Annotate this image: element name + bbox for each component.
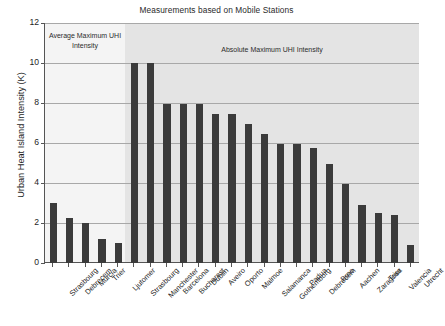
bar (147, 63, 154, 263)
plot-area: Average Maximum UHI Intensity Absolute M… (44, 23, 419, 263)
bar (82, 223, 89, 263)
bar (212, 114, 219, 263)
bar (342, 184, 349, 263)
bar (196, 104, 203, 263)
y-tick-label-6: 6 (34, 137, 39, 147)
bar (261, 134, 268, 263)
bar (163, 104, 170, 263)
bar (407, 245, 414, 263)
bar-series (45, 23, 419, 263)
bar (358, 205, 365, 263)
x-axis-label: Trier (387, 266, 404, 283)
bar (115, 243, 122, 263)
bar (131, 63, 138, 263)
bar (277, 144, 284, 263)
x-axis-label: Malmoe (260, 266, 285, 291)
x-axis-labels: StrasbourgDebrecemMurciaTrierLjutomerStr… (44, 266, 418, 326)
y-tick-label-10: 10 (29, 57, 39, 67)
y-tick-label-2: 2 (34, 217, 39, 227)
y-tick-label-12: 12 (29, 17, 39, 27)
y-tick-label-0: 0 (34, 257, 39, 267)
x-axis-label: Dublin (210, 266, 231, 287)
bar (391, 215, 398, 263)
bar (50, 203, 57, 263)
bar (180, 104, 187, 263)
bar (293, 144, 300, 263)
bar (245, 124, 252, 263)
y-tick-label-4: 4 (34, 177, 39, 187)
bar (228, 114, 235, 263)
y-axis-title: Urban Heat Island Intensity (K) (16, 10, 26, 260)
bar (66, 218, 73, 263)
bar (375, 213, 382, 263)
bar (310, 148, 317, 263)
y-tick-label-8: 8 (34, 97, 39, 107)
chart-title: Measurements based on Mobile Stations (0, 5, 433, 15)
bar (326, 164, 333, 263)
bar (98, 239, 105, 263)
